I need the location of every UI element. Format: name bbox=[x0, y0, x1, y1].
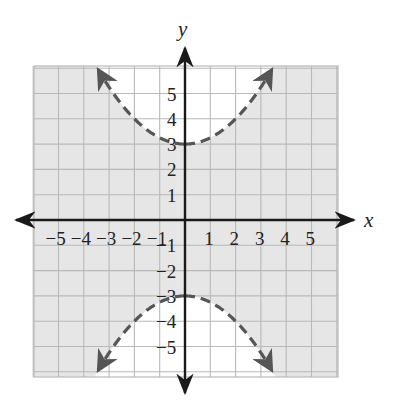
x-tick-label: −5 bbox=[46, 228, 66, 249]
y-tick-label: 2 bbox=[167, 159, 177, 180]
y-tick-label: −3 bbox=[156, 286, 176, 307]
x-tick-label: 4 bbox=[280, 228, 290, 249]
y-tick-label: 4 bbox=[167, 109, 177, 130]
y-tick-label: −2 bbox=[156, 261, 176, 282]
y-tick-label: −5 bbox=[156, 337, 176, 358]
x-tick-label: −4 bbox=[71, 228, 92, 249]
y-tick-label: 5 bbox=[167, 84, 177, 105]
x-tick-label: 1 bbox=[204, 228, 214, 249]
y-tick-label: 1 bbox=[167, 185, 177, 206]
chart-plot: −5−4−3−2−11234554321−1−2−3−4−5 x y bbox=[0, 0, 393, 413]
x-axis-label: x bbox=[363, 208, 374, 232]
x-tick-label: −2 bbox=[121, 228, 141, 249]
y-tick-label: 3 bbox=[167, 134, 177, 155]
x-tick-label: 2 bbox=[230, 228, 240, 249]
x-tick-label: −3 bbox=[96, 228, 116, 249]
x-tick-label: 5 bbox=[306, 228, 316, 249]
y-tick-label: −1 bbox=[156, 235, 176, 256]
y-axis-label: y bbox=[176, 17, 188, 41]
x-tick-label: 3 bbox=[255, 228, 265, 249]
y-tick-label: −4 bbox=[156, 311, 177, 332]
